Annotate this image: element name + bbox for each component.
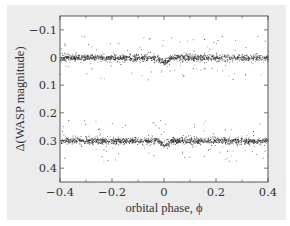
x-tick-label: 0 — [160, 185, 167, 199]
x-axis-title: orbital phase, ϕ — [125, 201, 202, 215]
x-tick-label: 0.4 — [259, 185, 277, 199]
y-tick-label: 0.3 — [39, 134, 57, 148]
y-tick-label: 0.4 — [39, 161, 57, 175]
light-curve-chart: −0.4−0.200.20.4 −0.100.10.20.30.4 orbita… — [0, 0, 290, 226]
x-tick-label: −0.2 — [98, 185, 126, 199]
y-tick-label: 0.1 — [39, 78, 57, 92]
x-tick-label: −0.4 — [46, 185, 74, 199]
y-tick-label: 0 — [50, 51, 57, 65]
x-tick-label: 0.2 — [207, 185, 225, 199]
y-axis-title: Δ(WASP magnitude) — [13, 46, 27, 151]
plot-area — [60, 16, 268, 182]
y-tick-label: −0.1 — [29, 23, 57, 37]
y-tick-label: 0.2 — [39, 106, 57, 120]
